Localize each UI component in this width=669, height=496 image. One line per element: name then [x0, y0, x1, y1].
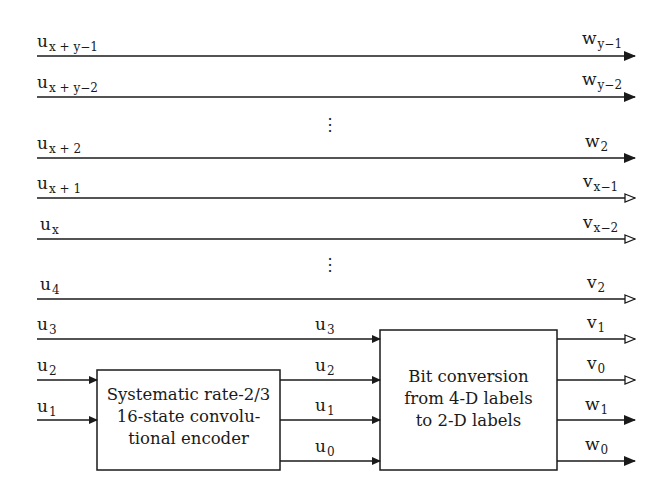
output-label-w-y1: wy−1: [582, 30, 622, 50]
output-label-v0: v0: [587, 355, 605, 375]
converter-label-line-3: to 2-D labels: [380, 410, 557, 432]
input-label-u1: u1: [37, 398, 57, 418]
output-label-w0: w0: [585, 436, 608, 456]
encoder-label-line-3: tional encoder: [97, 428, 280, 450]
output-label-v1: v1: [587, 314, 605, 334]
output-label-w2: w2: [585, 133, 608, 153]
input-label-u-xy1: ux + y−1: [37, 33, 98, 53]
converter-label-line-1: Bit conversion: [380, 366, 557, 388]
mid-label-u3: u3: [315, 316, 335, 336]
encoder-label: Systematic rate-2/3 16-state convolu- ti…: [97, 384, 280, 450]
input-label-u-x: ux: [40, 216, 59, 236]
output-label-v-x1: vx−1: [583, 173, 618, 193]
output-label-w1: w1: [585, 396, 608, 416]
input-label-u-x2: ux + 2: [37, 135, 81, 155]
input-label-u2: u2: [37, 357, 57, 377]
ellipsis-lower: ···: [325, 257, 335, 275]
encoder-label-line-1: Systematic rate-2/3: [97, 384, 280, 406]
input-label-u-xy2: ux + y−2: [37, 74, 98, 94]
encoder-label-line-2: 16-state convolu-: [97, 406, 280, 428]
input-label-u-x1: ux + 1: [37, 175, 81, 195]
input-label-u4: u4: [40, 276, 60, 296]
ellipsis-upper: ···: [325, 117, 335, 135]
output-label-v-x2: vx−2: [583, 214, 618, 234]
mid-label-u2: u2: [315, 357, 335, 377]
converter-label-line-2: from 4-D labels: [380, 388, 557, 410]
input-label-u3: u3: [37, 316, 57, 336]
output-label-v2: v2: [587, 274, 605, 294]
mid-label-u1: u1: [315, 397, 335, 417]
mid-label-u0: u0: [315, 438, 335, 458]
converter-label: Bit conversion from 4-D labels to 2-D la…: [380, 366, 557, 432]
output-label-w-y2: wy−2: [582, 71, 622, 91]
